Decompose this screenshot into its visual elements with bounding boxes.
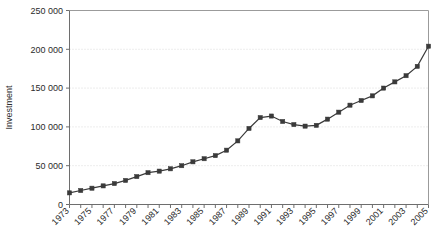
y-axis-title-text: Investment [4,85,14,130]
y-axis-tick-labels: 050 000100 000150 000200 000250 000 [30,6,63,210]
data-point-1974 [79,188,83,192]
data-point-1984 [191,160,195,164]
data-series-line [70,46,429,193]
data-point-1983 [180,164,184,168]
data-point-1977 [112,181,116,185]
data-point-1987 [224,148,228,152]
data-point-1981 [157,169,161,173]
x-tick-label-1977: 1977 [95,206,116,227]
data-point-1978 [123,178,127,182]
investment-line-chart: 050 000100 000150 000200 000250 000 1973… [0,0,443,252]
data-point-1986 [213,154,217,158]
x-tick-label-2003: 2003 [386,206,407,227]
data-point-2001 [382,86,386,90]
data-point-1976 [101,184,105,188]
x-tick-label-1993: 1993 [274,206,295,227]
y-tick-label-50000: 50 000 [35,161,63,171]
data-point-1991 [269,114,273,118]
chart-grid-layer [70,11,429,166]
y-tick-label-100000: 100 000 [30,122,63,132]
data-point-1975 [90,186,94,190]
data-point-1997 [337,110,341,114]
x-tick-label-1979: 1979 [117,206,138,227]
data-point-1992 [281,119,285,123]
data-point-1990 [258,115,262,119]
x-tick-label-1987: 1987 [207,206,228,227]
data-point-1988 [236,139,240,143]
x-tick-label-2005: 2005 [409,206,430,227]
x-axis-tick-labels: 1973197519771979198119831985198719891991… [50,206,430,227]
chart-frame [70,11,429,205]
data-point-1989 [247,126,251,130]
x-tick-label-1991: 1991 [252,206,273,227]
x-tick-label-1975: 1975 [72,206,93,227]
chart-container: 050 000100 000150 000200 000250 000 1973… [0,0,443,252]
y-tick-label-150000: 150 000 [30,83,63,93]
data-point-2000 [370,94,374,98]
data-point-2002 [393,80,397,84]
y-tick-label-250000: 250 000 [30,6,63,16]
x-tick-label-1973: 1973 [50,206,71,227]
data-point-2004 [415,64,419,68]
data-series-markers [67,44,430,195]
data-point-1980 [146,171,150,175]
data-point-1979 [135,174,139,178]
x-tick-label-1983: 1983 [162,206,183,227]
data-point-2005 [426,44,430,48]
chart-ticks [66,11,429,209]
data-point-1996 [325,117,329,121]
data-point-1995 [314,123,318,127]
x-tick-label-1989: 1989 [229,206,250,227]
x-tick-label-1997: 1997 [319,206,340,227]
y-tick-label-200000: 200 000 [30,45,63,55]
data-point-1993 [292,122,296,126]
data-point-1994 [303,124,307,128]
data-point-1973 [67,191,71,195]
data-point-2003 [404,74,408,78]
x-tick-label-2001: 2001 [364,206,385,227]
x-tick-label-1985: 1985 [184,206,205,227]
data-point-1982 [168,167,172,171]
data-point-1985 [202,157,206,161]
series-polyline [70,46,429,193]
x-tick-label-1981: 1981 [139,206,160,227]
data-point-1999 [359,98,363,102]
data-point-1998 [348,103,352,107]
y-axis-title: Investment [4,85,14,130]
x-tick-label-1999: 1999 [341,206,362,227]
x-tick-label-1995: 1995 [296,206,317,227]
